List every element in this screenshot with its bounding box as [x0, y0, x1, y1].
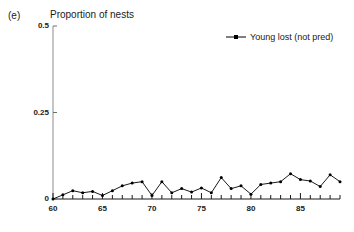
data-point: [71, 189, 74, 192]
data-point: [160, 180, 163, 183]
data-point: [141, 180, 144, 183]
data-point: [299, 178, 302, 181]
data-point: [210, 191, 213, 194]
data-point: [200, 186, 203, 189]
data-point: [101, 194, 104, 197]
data-point: [61, 193, 64, 196]
data-point: [309, 180, 312, 183]
data-point: [121, 184, 124, 187]
data-point: [269, 182, 272, 185]
series-line-young-lost: [53, 174, 340, 199]
data-point: [220, 176, 223, 179]
line-chart-plot: [0, 0, 354, 232]
data-point: [319, 185, 322, 188]
data-point: [131, 182, 134, 185]
data-point: [111, 189, 114, 192]
figure-panel-e: (e) Proportion of nests Young lost (not …: [0, 0, 354, 232]
data-point: [279, 180, 282, 183]
data-point: [249, 193, 252, 196]
data-point: [329, 173, 332, 176]
data-point: [339, 180, 342, 183]
data-point: [52, 198, 55, 201]
data-point: [81, 191, 84, 194]
data-point: [190, 191, 193, 194]
data-point: [240, 184, 243, 187]
data-point: [259, 183, 262, 186]
data-point: [170, 191, 173, 194]
data-point: [289, 172, 292, 175]
data-point: [180, 187, 183, 190]
data-point: [91, 190, 94, 193]
data-point: [230, 187, 233, 190]
data-point: [150, 194, 153, 197]
